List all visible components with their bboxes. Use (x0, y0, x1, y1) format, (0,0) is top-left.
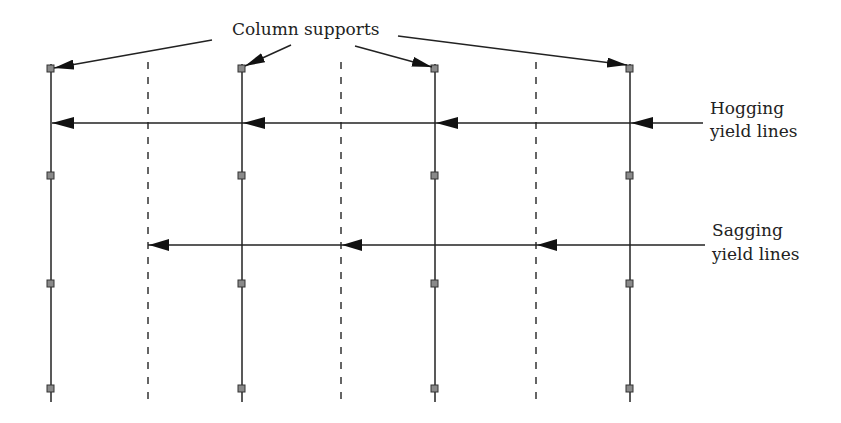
sagging-label-line2: yield lines (712, 243, 799, 265)
sagging-yield-line (148, 239, 705, 251)
sagging-label-line1: Sagging (712, 219, 783, 241)
column-supports-label: Column supports (232, 18, 379, 40)
hogging-label-line1: Hogging (710, 97, 784, 119)
hogging-label-line2: yield lines (710, 120, 797, 142)
column-support-markers (47, 65, 633, 392)
sagging-dashed-lines (148, 62, 536, 406)
hogging-yield-line (52, 117, 703, 129)
yield-line-diagram: Column supports Hogging yield lines Sagg… (0, 0, 841, 423)
diagram-canvas (0, 0, 841, 423)
